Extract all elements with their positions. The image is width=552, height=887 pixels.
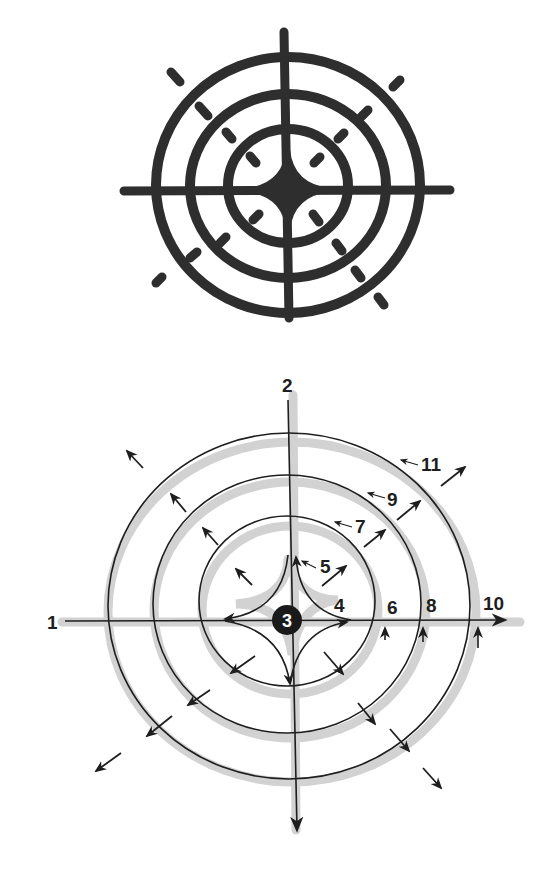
arrow-nw-core <box>236 569 252 585</box>
label-1: 1 <box>47 612 58 633</box>
arrow-ne-outer <box>441 467 465 486</box>
arrow-ne-mid <box>397 501 420 520</box>
label-4: 4 <box>334 595 345 616</box>
arrow-sw-outer <box>96 753 121 771</box>
arrow-nw-outer <box>127 451 143 468</box>
arrow-ne-inner <box>364 530 385 547</box>
label-8: 8 <box>426 595 437 616</box>
arrow-sw-core <box>231 656 255 673</box>
label-9: 9 <box>387 489 398 510</box>
arrow-se-core <box>324 652 343 674</box>
label-6: 6 <box>387 597 398 618</box>
diagram-canvas: 1 2 3 4 5 6 7 8 9 10 11 <box>0 0 552 887</box>
label-7: 7 <box>355 516 366 537</box>
label-2: 2 <box>282 375 293 396</box>
label-11: 11 <box>421 454 442 475</box>
arrow-nw-mid <box>171 494 186 512</box>
leader-11 <box>401 460 418 465</box>
arrow-se-outer <box>423 768 441 788</box>
label-10: 10 <box>483 593 504 614</box>
leader-9 <box>368 493 385 498</box>
arrow-nw-inner <box>203 528 218 545</box>
leader-5 <box>302 561 316 568</box>
label-5: 5 <box>320 556 331 577</box>
leader-7 <box>335 522 352 527</box>
painted-symbol <box>124 32 450 318</box>
label-3: 3 <box>282 611 292 631</box>
